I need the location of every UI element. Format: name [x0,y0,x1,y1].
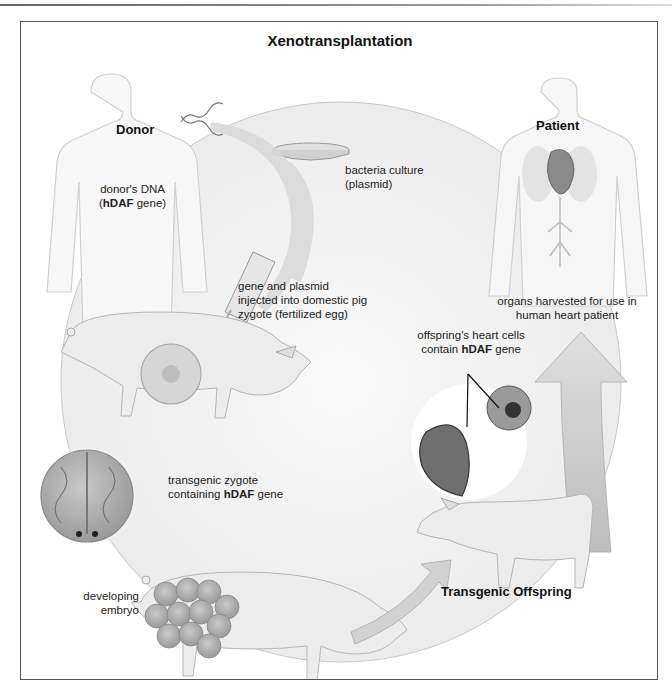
label-bacteria-culture: bacteria culture (plasmid) [345,163,424,191]
diagram-frame: Xenotransplantation Donor Patient Transg… [20,21,658,680]
label-organs-harvested: organs harvested for use in human heart … [487,294,647,322]
top-rule [0,4,672,6]
transgenic-zygote-icon [37,446,137,546]
diagram-title: Xenotransplantation [21,32,658,49]
label-heart-cells: offspring's heart cells contain hDAF gen… [401,328,541,356]
label-donor-dna: donor's DNA (hDAF gene) [99,182,166,210]
label-transgenic-zygote: transgenic zygote containing hDAF gene [168,473,283,501]
heading-donor: Donor [116,122,154,137]
label-developing-embryo: developing embryo [69,589,139,617]
heading-transgenic-offspring: Transgenic Offspring [441,584,572,599]
label-gene-injection: gene and plasmid injected into domestic … [238,279,367,321]
heading-patient: Patient [536,118,579,133]
